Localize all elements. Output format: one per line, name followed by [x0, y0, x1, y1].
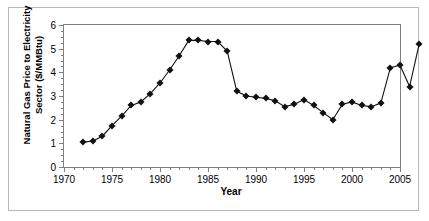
y-axis-tick: [61, 137, 64, 138]
x-axis-tick-label: 2000: [341, 174, 363, 185]
y-axis-tick-label: 3: [50, 91, 56, 102]
x-axis-tick-label: 1985: [197, 174, 219, 185]
y-axis-tick: [61, 161, 64, 162]
x-axis-tick: [390, 167, 391, 170]
y-axis-tick: [61, 90, 64, 91]
x-axis-tick: [227, 167, 228, 170]
y-axis-tick: [61, 78, 64, 79]
y-axis-tick: [59, 25, 64, 26]
y-axis-tick: [61, 102, 64, 103]
x-axis-tick-label: 1970: [53, 174, 75, 185]
y-axis-tick: [61, 84, 64, 85]
y-axis-tick-label: 6: [50, 20, 56, 31]
y-axis-tick: [59, 143, 64, 144]
x-axis-tick: [198, 167, 199, 170]
x-axis-title: Year: [63, 186, 399, 197]
y-axis-tick-label: 4: [50, 67, 56, 78]
x-axis-tick: [323, 167, 324, 170]
x-axis-tick: [266, 167, 267, 170]
x-axis-tick-label: 2005: [389, 174, 411, 185]
y-axis-tick-label: 2: [50, 114, 56, 125]
series-line: [64, 25, 400, 167]
x-axis-tick: [122, 167, 123, 170]
plot-area: 012345619701975198019851990199520002005: [63, 24, 401, 168]
y-axis-tick: [59, 96, 64, 97]
chart-figure: Natural Gas Price to Electricity Sector …: [8, 7, 419, 211]
y-axis-tick: [61, 108, 64, 109]
x-axis-tick: [93, 167, 94, 170]
y-axis-tick: [61, 43, 64, 44]
x-axis-tick: [170, 167, 171, 170]
y-axis-title: Natural Gas Price to Electricity Sector …: [21, 0, 45, 150]
y-axis-tick-label: 1: [50, 138, 56, 149]
x-axis-tick: [246, 167, 247, 170]
x-axis-tick: [83, 167, 84, 170]
y-axis-tick: [61, 66, 64, 67]
x-axis-tick: [362, 167, 363, 170]
y-axis-tick: [61, 114, 64, 115]
x-axis-tick: [400, 167, 401, 172]
x-axis-tick: [256, 167, 257, 172]
x-axis-tick: [285, 167, 286, 170]
y-axis-tick: [61, 55, 64, 56]
x-axis-tick: [131, 167, 132, 170]
y-axis-tick-label: 5: [50, 43, 56, 54]
y-axis-tick: [61, 132, 64, 133]
y-axis-tick: [59, 49, 64, 50]
y-axis-tick: [61, 37, 64, 38]
x-axis-tick-label: 1995: [293, 174, 315, 185]
x-axis-tick: [333, 167, 334, 170]
y-axis-tick: [61, 126, 64, 127]
x-axis-tick: [294, 167, 295, 170]
x-axis-tick: [102, 167, 103, 170]
x-axis-tick: [352, 167, 353, 172]
x-axis-tick: [64, 167, 65, 172]
x-axis-tick: [141, 167, 142, 170]
y-axis-tick: [61, 149, 64, 150]
x-axis-tick: [208, 167, 209, 172]
x-axis-tick: [381, 167, 382, 170]
x-axis-tick-label: 1980: [149, 174, 171, 185]
x-axis-tick: [304, 167, 305, 172]
x-axis-tick: [314, 167, 315, 170]
data-point-marker: [406, 83, 413, 90]
x-axis-tick-label: 1975: [101, 174, 123, 185]
x-axis-tick: [371, 167, 372, 170]
y-axis-tick: [61, 31, 64, 32]
x-axis-tick: [112, 167, 113, 172]
x-axis-tick: [179, 167, 180, 170]
x-axis-tick: [150, 167, 151, 170]
x-axis-tick: [218, 167, 219, 170]
data-point-marker: [416, 40, 423, 47]
x-axis-tick: [342, 167, 343, 170]
y-axis-tick: [59, 120, 64, 121]
y-axis-tick: [59, 72, 64, 73]
y-axis-tick-label: 0: [50, 162, 56, 173]
x-axis-tick: [237, 167, 238, 170]
x-axis-tick-label: 1990: [245, 174, 267, 185]
x-axis-tick: [74, 167, 75, 170]
x-axis-tick: [189, 167, 190, 170]
x-axis-tick: [160, 167, 161, 172]
y-axis-tick: [61, 155, 64, 156]
x-axis-tick: [275, 167, 276, 170]
y-axis-tick: [61, 61, 64, 62]
